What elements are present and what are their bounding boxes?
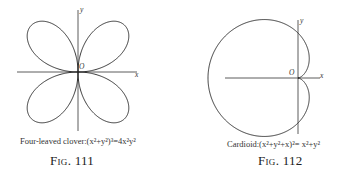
cardioid-plot — [170, 0, 340, 179]
figure-label: Fig. 112 — [258, 153, 303, 169]
figure-111: y x O Four-leaved clover:(x²+y²)³=4x²y² … — [0, 0, 170, 179]
figure-112: y x O Cardioid:(x²+y²+x)²= x²+y² Fig. 11… — [170, 0, 340, 179]
figure-caption: Four-leaved clover:(x²+y²)³=4x²y² — [20, 136, 136, 146]
x-axis-label: x — [135, 70, 138, 79]
y-axis-label: y — [80, 5, 83, 14]
origin-label: O — [289, 68, 294, 77]
figure-caption: Cardioid:(x²+y²+x)²= x²+y² — [227, 139, 320, 149]
y-axis-label: y — [300, 16, 303, 25]
figure-label: Fig. 111 — [50, 153, 94, 169]
x-axis-label: x — [320, 71, 323, 80]
origin-label: O — [79, 62, 84, 71]
